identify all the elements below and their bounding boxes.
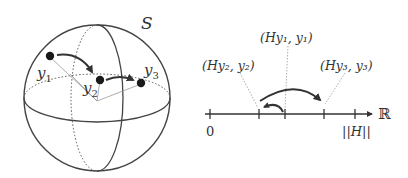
equator-front [24,98,170,122]
tick-label-zero: 0 [206,124,214,139]
axis-label-R: ℝ [378,105,391,123]
arrow-y1-to-y2 [57,55,92,72]
meridian-front [97,25,123,171]
label-y3: y3 [143,61,159,81]
point-y2 [96,76,104,84]
point-y3 [137,79,145,87]
label-y1: y1 [36,64,52,84]
number-line: ℝ 0 ||H|| (Hy₁, y₁) (Hy₂, y₂) (Hy₃, y₃) [202,30,391,139]
tick-label-norm: ||H|| [342,124,371,139]
point-y1 [46,52,54,60]
sphere-label: S [141,13,153,33]
diagram-canvas: S y1 y2 y3 ℝ 0 ||H|| (Hy₁, y₁) (Hy₂, y₂)… [0,0,408,178]
arrow-hy1-to-hy2 [264,105,283,112]
leader-lines [240,46,345,109]
sphere: S y1 y2 y3 [24,13,170,171]
annotation-hy2: (Hy₂, y₂) [202,58,255,73]
arrow-y2-to-y3 [106,77,133,80]
label-y2: y2 [82,79,98,99]
annotation-hy3: (Hy₃, y₃) [320,58,373,73]
annotation-hy1: (Hy₁, y₁) [260,30,313,45]
arrow-hy2-to-hy3 [260,89,320,101]
